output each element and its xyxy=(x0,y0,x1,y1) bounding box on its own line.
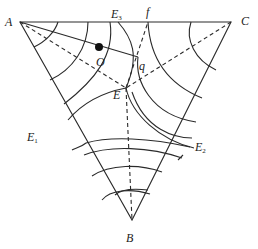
diagram-svg xyxy=(0,0,258,249)
label-e1: E1 xyxy=(27,131,38,145)
label-e3: E3 xyxy=(111,8,122,22)
isotherm-a1 xyxy=(34,22,58,47)
label-c: C xyxy=(241,15,249,27)
label-e: E xyxy=(113,89,120,101)
label-e2: E2 xyxy=(195,141,206,155)
isotherm-b1 xyxy=(72,143,86,150)
label-f: f xyxy=(146,6,149,18)
label-q: q xyxy=(139,60,145,72)
arrow-tick-e2 xyxy=(178,155,183,160)
label-o: O xyxy=(96,56,105,68)
line-a-o-q xyxy=(20,22,138,57)
label-b: B xyxy=(126,232,133,244)
point-o-dot xyxy=(95,43,103,51)
isotherm-b0 xyxy=(86,139,190,147)
isotherm-c3 xyxy=(138,57,196,122)
isotherm-c4 xyxy=(132,92,192,138)
label-a: A xyxy=(5,16,12,28)
ternary-phase-diagram: A C B O E q f E3 E1 E2 xyxy=(0,0,258,249)
isotherm-a2 xyxy=(50,22,88,80)
isotherm-c2 xyxy=(148,22,202,98)
